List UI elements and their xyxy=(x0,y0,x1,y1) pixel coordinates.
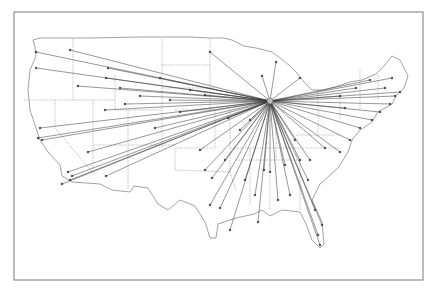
destination-dot xyxy=(349,139,351,141)
destination-dot xyxy=(275,61,277,63)
destination-dot xyxy=(39,127,41,129)
destination-dot xyxy=(41,139,43,141)
destination-dot xyxy=(299,159,301,161)
destination-dot xyxy=(355,87,357,89)
destination-dot xyxy=(211,177,213,179)
destination-dot xyxy=(67,171,69,173)
destination-dot xyxy=(179,111,181,113)
destination-dot xyxy=(371,119,373,121)
destination-dot xyxy=(209,51,211,53)
destination-dot xyxy=(244,179,246,181)
destination-dot xyxy=(169,99,171,101)
destination-dot xyxy=(71,175,73,177)
destination-dot xyxy=(317,234,319,236)
destination-dot xyxy=(159,77,161,79)
destination-dot xyxy=(239,129,241,131)
destination-dot xyxy=(199,149,201,151)
destination-dot xyxy=(105,175,107,177)
destination-dot xyxy=(359,127,361,129)
destination-dot xyxy=(219,207,221,209)
destination-dot xyxy=(69,49,71,51)
destination-dot xyxy=(263,169,265,171)
destination-dot xyxy=(35,51,37,53)
destination-dot xyxy=(391,77,393,79)
destination-dot xyxy=(204,169,206,171)
destination-dot xyxy=(299,77,301,79)
destination-dot xyxy=(314,209,316,211)
destination-dot xyxy=(394,95,396,97)
destination-dot xyxy=(119,87,121,89)
destination-dot xyxy=(139,95,141,97)
destination-dot xyxy=(399,91,401,93)
destination-dot xyxy=(87,151,89,153)
destination-dot xyxy=(154,127,156,129)
destination-dot xyxy=(77,85,79,87)
destination-dot xyxy=(277,199,279,201)
destination-dot xyxy=(289,194,291,196)
destination-dot xyxy=(344,107,346,109)
hub-marker xyxy=(267,98,273,104)
destination-dot xyxy=(379,111,381,113)
route-map xyxy=(0,0,433,297)
destination-dot xyxy=(37,137,39,139)
destination-dot xyxy=(269,171,271,173)
destination-dot xyxy=(261,75,263,77)
destination-dot xyxy=(257,221,259,223)
destination-dot xyxy=(321,224,323,226)
destination-dot xyxy=(104,109,106,111)
destination-dot xyxy=(384,87,386,89)
destination-dot xyxy=(339,151,341,153)
destination-dot xyxy=(254,194,256,196)
destination-dot xyxy=(209,204,211,206)
destination-dot xyxy=(124,103,126,105)
destination-dot xyxy=(61,183,63,185)
destination-dot xyxy=(107,67,109,69)
destination-dot xyxy=(227,117,229,119)
destination-dot xyxy=(35,67,37,69)
destination-dot xyxy=(369,79,371,81)
destination-dot xyxy=(389,103,391,105)
route-map-canvas xyxy=(0,0,433,297)
destination-dot xyxy=(284,164,286,166)
destination-dot xyxy=(324,147,326,149)
destination-dot xyxy=(307,179,309,181)
destination-dot xyxy=(105,77,107,79)
map-frame xyxy=(14,12,423,280)
destination-dot xyxy=(204,94,206,96)
destination-dot xyxy=(309,159,311,161)
destination-dot xyxy=(319,244,321,246)
destination-dot xyxy=(229,229,231,231)
destination-dot xyxy=(339,95,341,97)
